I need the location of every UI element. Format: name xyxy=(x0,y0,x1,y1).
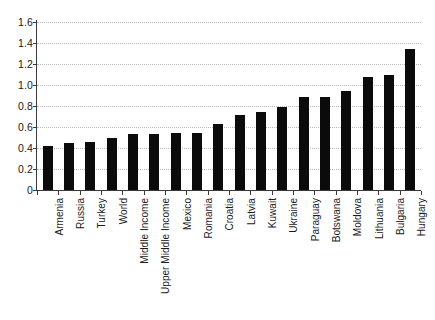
bar-chart: 00.20.40.60.81.01.21.41.6 ArmeniaRussiaT… xyxy=(0,0,435,320)
x-label-slot: Paraguay xyxy=(293,198,314,308)
x-label-slot: Ukraine xyxy=(272,198,293,308)
x-axis-tickmark xyxy=(229,191,230,195)
x-label-slot: Mexico xyxy=(165,198,186,308)
x-axis-tickmark xyxy=(400,191,401,195)
x-label-slot: Hungary xyxy=(400,198,421,308)
x-label-slot: Turkey xyxy=(80,198,101,308)
x-axis-tickmark xyxy=(165,191,166,195)
x-axis-tickmark xyxy=(80,191,81,195)
x-label-slot: Russia xyxy=(58,198,79,308)
x-label-slot: Moldova xyxy=(336,198,357,308)
x-label-slot: Bulgaria xyxy=(378,198,399,308)
x-label-slot: Lithuania xyxy=(357,198,378,308)
x-axis-tickmark xyxy=(378,191,379,195)
x-label-slot: Botswana xyxy=(314,198,335,308)
x-axis-tick-label: Hungary xyxy=(416,198,427,236)
x-axis-tickmark xyxy=(144,191,145,195)
x-axis-tickmark xyxy=(186,191,187,195)
x-axis-tickmark xyxy=(250,191,251,195)
x-label-slot: Upper Middle Income xyxy=(144,198,165,308)
x-axis-tickmark xyxy=(37,191,38,195)
x-axis-tickmark xyxy=(101,191,102,195)
x-axis-tickmark xyxy=(293,191,294,195)
x-axis-tickmark xyxy=(58,191,59,195)
x-axis-tickmark xyxy=(272,191,273,195)
x-axis-tickmark xyxy=(357,191,358,195)
x-axis-tickmark xyxy=(122,191,123,195)
x-axis-tick-labels: ArmeniaRussiaTurkeyWorldMiddle IncomeUpp… xyxy=(37,198,421,308)
x-label-slot: Croatia xyxy=(208,198,229,308)
x-axis-tickmark xyxy=(314,191,315,195)
x-label-slot: Middle Income xyxy=(122,198,143,308)
x-label-slot: Romania xyxy=(186,198,207,308)
x-axis-tickmark xyxy=(421,191,422,195)
x-axis-tickmark xyxy=(336,191,337,195)
x-label-slot: Latvia xyxy=(229,198,250,308)
x-label-slot: World xyxy=(101,198,122,308)
x-label-slot: Kuwait xyxy=(250,198,271,308)
x-label-slot: Armenia xyxy=(37,198,58,308)
x-axis-tickmark xyxy=(208,191,209,195)
